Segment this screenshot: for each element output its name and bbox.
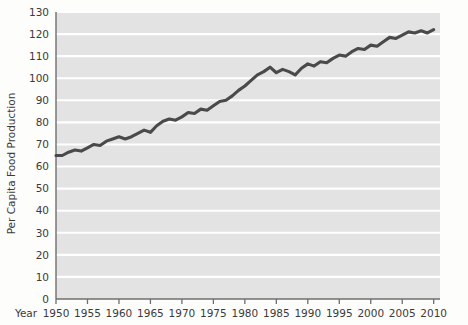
y-tick-label-110: 110	[29, 50, 49, 62]
x-tick-label-1950: 1950	[43, 307, 70, 319]
x-tick-label-2010: 2010	[420, 307, 447, 319]
x-tick-label-1960: 1960	[106, 307, 133, 319]
y-tick-labels: 0102030405060708090100110120130	[29, 6, 49, 305]
y-tick-label-100: 100	[29, 72, 49, 84]
x-tick-label-1980: 1980	[231, 307, 258, 319]
x-tick-label-1970: 1970	[169, 307, 196, 319]
x-axis	[56, 299, 440, 304]
y-tick-label-60: 60	[36, 160, 49, 172]
x-tick-label-1990: 1990	[294, 307, 321, 319]
x-tick-label-1995: 1995	[326, 307, 353, 319]
x-tick-label-2000: 2000	[357, 307, 384, 319]
x-tick-label-1965: 1965	[137, 307, 164, 319]
line-chart: 0102030405060708090100110120130 19501955…	[0, 0, 468, 325]
x-tick-labels: 1950195519601965197019751980198519901995…	[43, 307, 447, 319]
x-axis-title: Year	[14, 307, 38, 319]
y-axis-title: Per Capita Food Production	[5, 93, 17, 235]
y-tick-label-30: 30	[36, 227, 49, 239]
y-tick-label-90: 90	[36, 94, 49, 106]
y-tick-label-10: 10	[36, 271, 49, 283]
chart-figure: 0102030405060708090100110120130 19501955…	[0, 0, 468, 325]
x-tick-label-1955: 1955	[74, 307, 101, 319]
y-tick-label-40: 40	[36, 204, 49, 216]
x-tick-label-1975: 1975	[200, 307, 227, 319]
x-tick-label-2005: 2005	[389, 307, 416, 319]
y-tick-label-130: 130	[29, 6, 49, 18]
axis-titles: Per Capita Food ProductionYear	[5, 93, 38, 319]
y-tick-label-50: 50	[36, 182, 49, 194]
y-tick-label-120: 120	[29, 28, 49, 40]
plot-area	[56, 12, 440, 299]
y-tick-label-20: 20	[36, 249, 49, 261]
plot-background	[56, 12, 440, 299]
y-tick-label-70: 70	[36, 138, 49, 150]
y-tick-label-0: 0	[42, 293, 49, 305]
y-tick-label-80: 80	[36, 116, 49, 128]
x-tick-label-1985: 1985	[263, 307, 290, 319]
